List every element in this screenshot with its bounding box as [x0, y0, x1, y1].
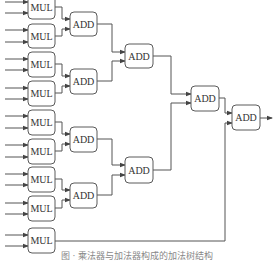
svg-text:ADD: ADD — [128, 165, 150, 176]
add-node: ADD — [125, 157, 153, 183]
mul-boxes: MUL MUL MUL MUL MUL MUL MUL MUL MUL — [28, 0, 55, 253]
mul-node: MUL — [28, 24, 55, 48]
mul-node: MUL — [28, 52, 55, 77]
mul-node: MUL — [28, 167, 55, 192]
level2-wires — [97, 24, 125, 195]
svg-text:ADD: ADD — [235, 112, 257, 123]
add-node: ADD — [70, 12, 97, 36]
svg-text:MUL: MUL — [30, 59, 52, 70]
svg-text:MUL: MUL — [30, 31, 52, 42]
add-node: ADD — [70, 127, 97, 152]
add-node: ADD — [125, 44, 153, 68]
svg-text:ADD: ADD — [73, 134, 95, 145]
add-node: ADD — [70, 69, 97, 94]
svg-text:MUL: MUL — [30, 2, 52, 13]
add-node: ADD — [70, 183, 97, 208]
mul-node: MUL — [28, 110, 55, 135]
add-node: ADD — [191, 86, 219, 111]
svg-text:MUL: MUL — [30, 88, 52, 99]
svg-text:MUL: MUL — [30, 174, 52, 185]
add-node: ADD — [232, 105, 260, 130]
svg-text:MUL: MUL — [30, 235, 52, 246]
svg-text:MUL: MUL — [30, 117, 52, 128]
svg-text:ADD: ADD — [128, 51, 150, 62]
mul-node: MUL — [28, 81, 55, 106]
mul-node: MUL — [28, 0, 55, 19]
figure-caption: 图 · 乘法器与加法器构成的加法树结构 — [0, 250, 274, 262]
add-boxes: ADD ADD ADD ADD ADD ADD ADD ADD — [70, 12, 260, 208]
mul-node: MUL — [28, 196, 55, 221]
level1-wires — [55, 7, 70, 208]
svg-text:ADD: ADD — [73, 190, 95, 201]
svg-text:MUL: MUL — [30, 203, 52, 214]
mul-node: MUL — [28, 139, 55, 164]
svg-text:ADD: ADD — [194, 93, 216, 104]
svg-text:MUL: MUL — [30, 146, 52, 157]
svg-text:ADD: ADD — [73, 19, 95, 30]
svg-text:ADD: ADD — [73, 76, 95, 87]
input-wires — [5, 2, 28, 246]
level3-wires — [153, 56, 191, 170]
